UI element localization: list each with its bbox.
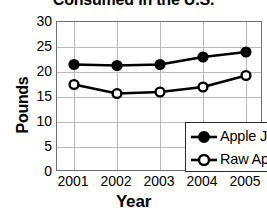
- data-point: [69, 60, 78, 69]
- line-chart: Consumed in the U.S. Pounds 30 25 20 15 …: [0, 0, 267, 220]
- data-point: [198, 52, 207, 61]
- x-tick-label: 2003: [136, 173, 182, 190]
- x-axis-title: Year: [0, 192, 267, 212]
- legend-label: Raw Apples: [219, 152, 267, 167]
- filled-circle-icon: [189, 127, 219, 147]
- y-tick-label: 0: [26, 164, 52, 178]
- y-tick-label: 5: [26, 139, 52, 153]
- data-point: [113, 89, 122, 98]
- legend-item-raw-apples: Raw Apples: [186, 148, 267, 171]
- data-point: [242, 71, 251, 80]
- data-point: [241, 47, 250, 56]
- y-tick-label: 15: [26, 89, 52, 103]
- y-tick-label: 20: [26, 64, 52, 78]
- markers-raw-apples: [70, 71, 251, 98]
- x-tick-label: 2005: [222, 173, 267, 190]
- x-tick-label: 2001: [50, 173, 96, 190]
- data-point: [112, 61, 121, 70]
- open-circle-icon: [189, 150, 219, 170]
- data-point: [70, 80, 79, 89]
- x-axis-tick-labels: 2001 2002 2003 2004 2005: [56, 173, 262, 193]
- y-tick-label: 25: [26, 39, 52, 53]
- data-point: [155, 60, 164, 69]
- markers-apple-juice: [69, 47, 250, 70]
- x-tick-label: 2004: [179, 173, 225, 190]
- x-tick-label: 2002: [93, 173, 139, 190]
- y-tick-label: 10: [26, 114, 52, 128]
- data-point: [199, 83, 208, 92]
- chart-legend: Apple Juice Raw Apples: [185, 122, 267, 172]
- y-axis-tick-labels: 30 25 20 15 10 5 0: [24, 0, 52, 220]
- plot-area: Apple Juice Raw Apples: [56, 21, 262, 171]
- y-tick-label: 30: [26, 14, 52, 28]
- legend-item-apple-juice: Apple Juice: [186, 125, 267, 148]
- data-point: [156, 88, 165, 97]
- legend-label: Apple Juice: [219, 129, 267, 144]
